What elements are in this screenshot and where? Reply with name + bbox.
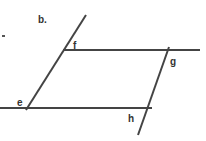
parallel-lines-diagram: b. f g e h [0, 0, 206, 141]
angle-label-h: h [128, 113, 134, 124]
left-transversal [26, 15, 86, 110]
stray-mark [2, 35, 5, 37]
angle-label-e: e [17, 97, 23, 108]
part-label: b. [38, 14, 47, 25]
angle-label-g: g [170, 56, 176, 67]
right-transversal [138, 47, 169, 135]
